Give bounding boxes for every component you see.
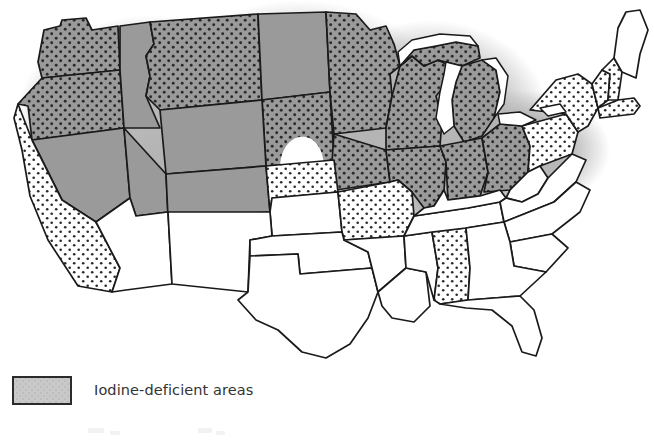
state-al <box>432 228 470 304</box>
legend: Iodine-deficient areas <box>12 376 253 405</box>
state-me <box>614 10 648 78</box>
us-map-svg <box>0 0 654 365</box>
state-mt <box>146 14 262 110</box>
map-area <box>0 0 654 365</box>
state-wa <box>38 18 120 78</box>
state-ks <box>270 192 342 236</box>
state-co <box>166 166 270 218</box>
state-nd <box>258 12 330 100</box>
state-wy <box>160 100 266 174</box>
state-mo <box>338 180 414 240</box>
state-shapes <box>14 10 648 358</box>
state-fl <box>440 296 542 356</box>
scan-artifact <box>0 424 654 440</box>
figure-container: Iodine-deficient areas <box>0 0 654 440</box>
state-in <box>440 138 488 200</box>
legend-swatch-iodine-deficient <box>12 376 72 405</box>
legend-label: Iodine-deficient areas <box>94 383 253 398</box>
